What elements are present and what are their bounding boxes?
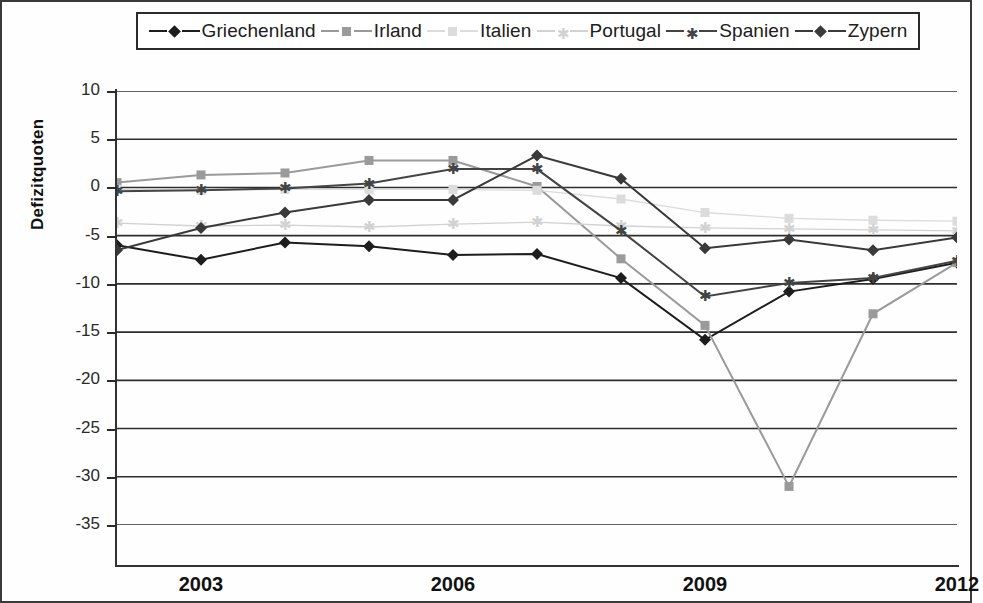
- chart-legend: GriechenlandIrlandItalien✱Portugal✱Spani…: [136, 12, 920, 50]
- data-point-marker: [447, 194, 459, 206]
- y-tick-label: 10: [54, 80, 100, 100]
- y-tick-label: -20: [54, 369, 100, 389]
- legend-line-griechenland: [149, 30, 167, 32]
- legend-label: Italien: [480, 20, 531, 42]
- data-point-marker: [449, 185, 458, 194]
- y-tick-label: 0: [54, 176, 100, 196]
- data-point-marker: ✱: [783, 274, 796, 291]
- y-tick-label: -30: [54, 466, 100, 486]
- data-point-marker: ✱: [951, 252, 958, 269]
- y-tick-mark: [107, 139, 117, 141]
- y-tick-label: -25: [54, 418, 100, 438]
- data-point-marker: ✱: [867, 221, 880, 238]
- legend-line-italien: [427, 30, 445, 32]
- y-tick-label: -5: [54, 225, 100, 245]
- y-tick-mark: [107, 380, 117, 382]
- data-point-marker: ✱: [279, 216, 292, 233]
- data-point-marker: ✱: [699, 219, 712, 236]
- legend-label: Irland: [374, 20, 422, 42]
- legend-line2-italien: [460, 30, 478, 32]
- data-point-marker: [195, 254, 207, 266]
- data-point-marker: ✱: [279, 179, 292, 196]
- data-point-marker: ✱: [363, 218, 376, 235]
- legend-marker-square-icon: [447, 26, 458, 37]
- data-point-marker: [701, 208, 710, 217]
- data-point-marker: ✱: [447, 160, 460, 177]
- y-tick-label: -35: [54, 514, 100, 534]
- x-tick-label: 2012: [912, 573, 983, 596]
- data-point-marker: [531, 248, 543, 260]
- y-tick-mark: [107, 525, 117, 527]
- data-point-marker: [363, 194, 375, 206]
- data-point-marker: ✱: [447, 215, 460, 232]
- x-tick-label: 2006: [408, 573, 498, 596]
- legend-marker-star-icon: ✱: [686, 26, 697, 37]
- y-tick-label: 5: [54, 128, 100, 148]
- data-point-marker: [701, 321, 710, 330]
- data-point-marker: ✱: [195, 181, 208, 198]
- x-tick-label: 2003: [156, 573, 246, 596]
- legend-line2-portugal: [570, 30, 588, 32]
- legend-label: Spanien: [719, 20, 789, 42]
- plot-area: ✱✱✱✱✱✱✱✱✱✱✱✱✱✱✱✱✱✱✱✱✱✱: [117, 91, 957, 525]
- data-point-marker: ✱: [615, 222, 628, 239]
- series-canvas: ✱✱✱✱✱✱✱✱✱✱✱✱✱✱✱✱✱✱✱✱✱✱: [117, 91, 957, 525]
- series-spanien: ✱✱✱✱✱✱✱✱✱✱✱: [117, 160, 957, 304]
- y-tick-mark: [107, 477, 117, 479]
- legend-item-spanien[interactable]: ✱Spanien: [666, 20, 789, 42]
- data-point-marker: [785, 482, 794, 491]
- series-line: [117, 160, 957, 486]
- legend-marker-diamond-icon: [169, 26, 180, 37]
- legend-line-irland: [321, 30, 339, 32]
- legend-label: Griechenland: [202, 20, 316, 42]
- data-point-marker: ✱: [117, 214, 124, 231]
- data-point-marker: ✱: [363, 175, 376, 192]
- legend-line-spanien: [666, 30, 684, 32]
- data-point-marker: ✱: [117, 182, 124, 199]
- y-tick-mark: [107, 187, 117, 189]
- data-point-marker: ✱: [699, 287, 712, 304]
- data-point-marker: ✱: [531, 160, 544, 177]
- data-point-marker: [447, 249, 459, 261]
- data-point-marker: ✱: [867, 269, 880, 286]
- data-point-marker: ✱: [531, 213, 544, 230]
- series-griechenland: [117, 236, 957, 345]
- data-point-marker: [533, 186, 542, 195]
- data-point-marker: [281, 168, 290, 177]
- legend-marker-diamond-icon: [815, 26, 826, 37]
- y-tick-mark: [107, 284, 117, 286]
- legend-item-portugal[interactable]: ✱Portugal: [537, 20, 662, 42]
- legend-item-griechenland[interactable]: Griechenland: [149, 20, 316, 42]
- legend-item-irland[interactable]: Irland: [321, 20, 422, 42]
- y-tick-mark: [107, 429, 117, 431]
- x-tick-label: 2009: [660, 573, 750, 596]
- y-tick-label: -10: [54, 273, 100, 293]
- legend-marker-square-icon: [341, 26, 352, 37]
- legend-line2-zypern: [828, 30, 846, 32]
- legend-label: Portugal: [590, 20, 662, 42]
- legend-line2-griechenland: [182, 30, 200, 32]
- y-tick-label: -15: [54, 321, 100, 341]
- series-irland: [117, 156, 957, 491]
- legend-label: Zypern: [848, 20, 908, 42]
- legend-line2-irland: [354, 30, 372, 32]
- x-axis-line: [115, 565, 959, 567]
- y-tick-mark: [107, 332, 117, 334]
- data-point-marker: [869, 309, 878, 318]
- data-point-marker: [617, 254, 626, 263]
- legend-line-zypern: [795, 30, 813, 32]
- y-tick-mark: [107, 236, 117, 238]
- data-point-marker: [279, 236, 291, 248]
- legend-item-zypern[interactable]: Zypern: [795, 20, 908, 42]
- y-tick-mark: [107, 91, 117, 93]
- y-axis-label: Defizitquoten: [28, 80, 48, 230]
- legend-line-portugal: [537, 30, 555, 32]
- legend-line2-spanien: [699, 30, 717, 32]
- data-point-marker: [617, 195, 626, 204]
- data-point-marker: [867, 244, 879, 256]
- legend-item-italien[interactable]: Italien: [427, 20, 531, 42]
- data-point-marker: [197, 170, 206, 179]
- legend-marker-star-icon: ✱: [557, 26, 568, 37]
- data-point-marker: [363, 240, 375, 252]
